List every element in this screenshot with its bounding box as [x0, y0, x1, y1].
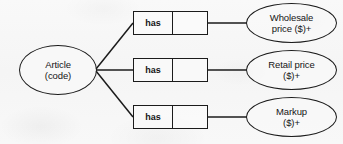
value-type-retail-price[interactable]: Retail price ($)+ [246, 50, 337, 90]
fact-type-1-role-1[interactable]: has [134, 12, 173, 34]
fact-type-box-2[interactable]: has [133, 58, 208, 82]
value-type-wholesale-price[interactable]: Wholesale price ($)+ [246, 3, 337, 43]
entity-type-article-reference-mode: (code) [45, 70, 71, 82]
value-type-retail-price-line-1: Retail price [268, 59, 314, 71]
orm-diagram-canvas: Article (code) has Wholesale price ($)+ … [0, 0, 343, 144]
value-type-retail-price-line-2: ($)+ [283, 70, 300, 82]
value-type-markup-line-1: Markup [276, 106, 307, 118]
fact-type-2-role-1[interactable]: has [134, 59, 173, 81]
connector-entity-to-fact-1 [96, 23, 133, 69]
entity-type-article[interactable]: Article (code) [19, 45, 97, 95]
fact-type-box-1[interactable]: has [133, 11, 208, 35]
fact-type-3-role-2[interactable] [173, 106, 207, 128]
value-type-markup-line-2: ($)+ [283, 117, 300, 129]
fact-type-2-role-2[interactable] [173, 59, 207, 81]
fact-type-1-role-2[interactable] [173, 12, 207, 34]
entity-type-article-name: Article [45, 59, 71, 71]
value-type-wholesale-price-line-1: Wholesale [270, 12, 313, 24]
fact-type-3-role-1[interactable]: has [134, 106, 173, 128]
connector-entity-to-fact-3 [96, 71, 133, 117]
value-type-markup[interactable]: Markup ($)+ [246, 97, 337, 137]
value-type-wholesale-price-line-2: price ($)+ [272, 23, 311, 35]
fact-type-box-3[interactable]: has [133, 105, 208, 129]
